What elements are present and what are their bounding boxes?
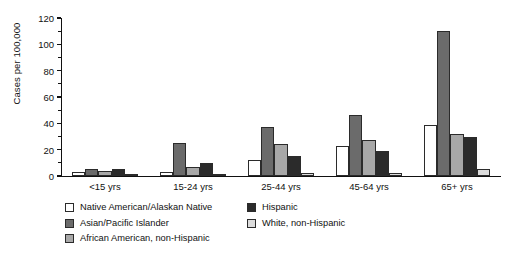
chart-figure: Cases per 100,000 020406080100120 <15 yr… (0, 0, 523, 266)
bar (349, 115, 362, 176)
legend-swatch-icon (247, 219, 256, 228)
legend-item: Asian/Pacific Islander (65, 216, 212, 232)
legend-column-right: HispanicWhite, non-Hispanic (247, 200, 345, 231)
bar (160, 172, 173, 176)
y-tick-label-80: 80 (43, 65, 54, 76)
legend-label: African American, non-Hispanic (80, 234, 210, 243)
x-axis-label-4: 45-64 yrs (349, 181, 389, 192)
bar (362, 140, 375, 176)
bar (376, 151, 389, 176)
bar (424, 125, 437, 176)
bar-group-5 (413, 18, 501, 176)
legend-label: White, non-Hispanic (262, 219, 345, 228)
x-axis-label-2: 15-24 yrs (173, 181, 213, 192)
bar (213, 174, 226, 176)
y-tick-label-40: 40 (43, 118, 54, 129)
bar (437, 31, 450, 176)
x-axis-label-3: 25-44 yrs (261, 181, 301, 192)
bar-group-4 (325, 18, 413, 176)
y-tick-label-0: 0 (49, 171, 54, 182)
bar (464, 137, 477, 177)
y-tick-label-60: 60 (43, 92, 54, 103)
bar (450, 134, 463, 176)
plot-area: 020406080100120 <15 yrs15-24 yrs25-44 yr… (61, 18, 501, 176)
x-axis-label-5: 65+ yrs (441, 181, 472, 192)
legend-item: Hispanic (247, 200, 345, 216)
legend-swatch-icon (65, 234, 74, 243)
bar-group-3 (237, 18, 325, 176)
y-tick-label-20: 20 (43, 144, 54, 155)
legend-item: Native American/Alaskan Native (65, 200, 212, 216)
legend-label: Native American/Alaskan Native (80, 203, 212, 212)
x-axis-label-1: <15 yrs (89, 181, 120, 192)
y-axis-title: Cases per 100,000 (11, 4, 22, 124)
y-tick-label-120: 120 (38, 13, 54, 24)
bar (477, 169, 490, 176)
bar (389, 173, 402, 176)
bar (173, 143, 186, 176)
bar (200, 163, 213, 176)
bar (261, 127, 274, 176)
bar-group-1 (61, 18, 149, 176)
legend-swatch-icon (65, 219, 74, 228)
bar (72, 172, 85, 176)
y-tick-label-100: 100 (38, 39, 54, 50)
bar (336, 146, 349, 176)
bar (274, 144, 287, 176)
legend-item: White, non-Hispanic (247, 216, 345, 232)
legend-swatch-icon (65, 203, 74, 212)
legend-column-left: Native American/Alaskan NativeAsian/Paci… (65, 200, 212, 247)
bar (288, 156, 301, 176)
legend-label: Asian/Pacific Islander (80, 219, 169, 228)
legend-swatch-icon (247, 203, 256, 212)
bar (301, 173, 314, 176)
bar (98, 171, 111, 176)
bar (125, 174, 138, 176)
bar (85, 169, 98, 176)
bar (186, 167, 199, 176)
bar (112, 169, 125, 176)
bar-group-2 (149, 18, 237, 176)
x-axis-line (61, 176, 501, 177)
legend-label: Hispanic (262, 203, 298, 212)
bar (248, 160, 261, 176)
legend-item: African American, non-Hispanic (65, 231, 212, 247)
